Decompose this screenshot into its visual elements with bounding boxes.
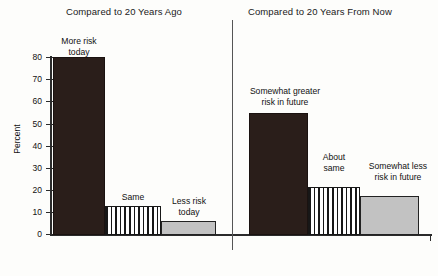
- bar-right-about-same: [308, 187, 360, 235]
- bar-label-somewhat-less-risk: Somewhat less risk in future: [357, 161, 438, 182]
- y-axis-label: Percent: [12, 109, 22, 169]
- bar-right-somewhat-greater-risk: [249, 113, 308, 235]
- bar-label-more-risk-today: More risk today: [43, 36, 115, 57]
- bar-label-same: Same: [107, 192, 159, 203]
- y-tick-label-80: 80: [20, 52, 42, 62]
- bar-left-same: [105, 206, 161, 235]
- y-tick-label-40: 40: [20, 141, 42, 151]
- panel-title-left: Compared to 20 Years Ago: [66, 6, 182, 17]
- y-tick-label-10: 10: [20, 207, 42, 217]
- bar-label-about-same: About same: [307, 152, 361, 173]
- bar-left-more-risk-today: [53, 57, 105, 235]
- x-axis-end-tick: [430, 234, 431, 241]
- y-tick-label-50: 50: [20, 119, 42, 129]
- panel-title-right: Compared to 20 Years From Now: [248, 6, 392, 17]
- y-tick-label-60: 60: [20, 96, 42, 106]
- bar-right-somewhat-less-risk: [360, 196, 419, 235]
- bar-left-less-risk-today: [161, 221, 216, 235]
- bar-label-less-risk-today: Less risk today: [158, 196, 220, 217]
- bar-chart: Compared to 20 Years Ago Compared to 20 …: [0, 0, 438, 276]
- y-tick-label-70: 70: [20, 74, 42, 84]
- y-tick-label-30: 30: [20, 163, 42, 173]
- panel-divider: [232, 20, 233, 250]
- bar-label-somewhat-greater-risk: Somewhat greater risk in future: [236, 86, 334, 107]
- y-tick-label-0: 0: [20, 229, 42, 239]
- y-tick-label-20: 20: [20, 185, 42, 195]
